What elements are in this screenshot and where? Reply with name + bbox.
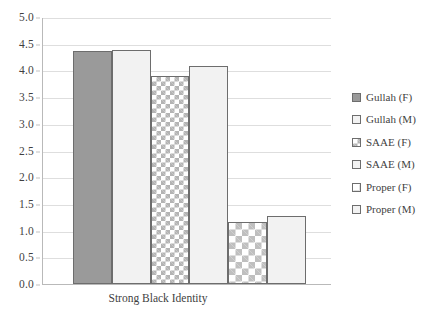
legend-item-label: SAAE (M) [366, 159, 415, 170]
y-tick-mark [36, 98, 40, 99]
bar-gullah-f [73, 51, 112, 284]
chart-legend: Gullah (F)Gullah (M)SAAE (F)SAAE (M)Prop… [352, 86, 438, 221]
y-tick-mark [36, 71, 40, 72]
y-tick-mark [36, 285, 40, 286]
y-axis: 0.00.51.01.52.02.53.03.54.04.55.0 [0, 18, 40, 285]
legend-item-label: Proper (F) [366, 182, 412, 193]
legend-swatch-icon [352, 183, 361, 192]
x-axis-label: Strong Black Identity [42, 292, 274, 304]
bar-proper-m [267, 216, 306, 284]
y-tick-label: 1.5 [19, 199, 34, 211]
legend-swatch-icon [352, 160, 361, 169]
y-tick-label: 5.0 [19, 12, 34, 24]
bar-chart: 0.00.51.01.52.02.53.03.54.04.55.0 Strong… [0, 0, 439, 322]
y-tick-label: 4.0 [19, 66, 34, 78]
y-tick-label: 2.0 [19, 172, 34, 184]
legend-item-label: Gullah (M) [366, 114, 416, 125]
legend-swatch-icon [352, 138, 361, 147]
legend-item[interactable]: Proper (M) [352, 199, 438, 222]
y-tick-label: 2.5 [19, 146, 34, 158]
legend-swatch-icon [352, 115, 361, 124]
y-tick-mark [36, 151, 40, 152]
y-tick-mark [36, 178, 40, 179]
y-tick-label: 3.5 [19, 92, 34, 104]
y-tick-label: 1.0 [19, 226, 34, 238]
y-tick-label: 3.0 [19, 119, 34, 131]
legend-item[interactable]: Gullah (M) [352, 109, 438, 132]
legend-item[interactable]: SAAE (F) [352, 131, 438, 154]
y-tick-mark [36, 204, 40, 205]
legend-swatch-icon [352, 93, 361, 102]
bar-saae-m [189, 66, 228, 284]
y-tick-label: 0.0 [19, 279, 34, 291]
bars-layer [43, 18, 331, 284]
y-tick-mark [36, 44, 40, 45]
bar-gullah-m [112, 50, 151, 284]
plot-area [42, 18, 331, 285]
y-tick-mark [36, 124, 40, 125]
legend-item-label: Gullah (F) [366, 92, 412, 103]
y-tick-label: 4.5 [19, 39, 34, 51]
bar-saae-f [151, 76, 190, 284]
y-tick-label: 0.5 [19, 253, 34, 265]
legend-item[interactable]: Proper (F) [352, 176, 438, 199]
legend-item-label: SAAE (F) [366, 137, 411, 148]
legend-swatch-icon [352, 205, 361, 214]
y-tick-mark [36, 18, 40, 19]
legend-item-label: Proper (M) [366, 204, 415, 215]
y-tick-mark [36, 258, 40, 259]
y-tick-mark [36, 231, 40, 232]
legend-item[interactable]: Gullah (F) [352, 86, 438, 109]
bar-proper-f [228, 222, 267, 284]
legend-item[interactable]: SAAE (M) [352, 154, 438, 177]
